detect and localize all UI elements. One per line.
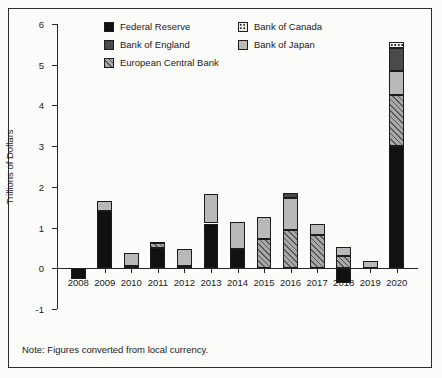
bar-segment-boj (97, 201, 112, 211)
stacked-bar[interactable] (71, 24, 86, 309)
bar-segment-ecb (310, 235, 325, 268)
stacked-bar[interactable] (124, 24, 139, 309)
bar-segment-fed (336, 268, 351, 283)
y-tick-label: 2 (22, 181, 44, 192)
bar-segment-fed (71, 268, 86, 279)
bar-segment-boj (204, 194, 219, 223)
bar-segment-boe (389, 48, 404, 70)
stacked-bar[interactable] (283, 24, 298, 309)
stacked-bar[interactable] (230, 24, 245, 309)
y-tick (52, 146, 57, 147)
y-tick-label: 3 (22, 141, 44, 152)
y-tick-label: 5 (22, 59, 44, 70)
bar-segment-ecb (389, 95, 404, 146)
bar-segment-fed (230, 249, 245, 269)
stacked-bar[interactable] (150, 24, 165, 309)
bar-segment-fed (389, 146, 404, 268)
bar-segment-boe (283, 193, 298, 198)
bar-segment-boj (310, 224, 325, 235)
chart-note: Note: Figures converted from local curre… (22, 344, 208, 355)
stacked-bar[interactable] (389, 24, 404, 309)
y-tick (52, 24, 57, 25)
bar-segment-boj (336, 247, 351, 256)
y-tick-label: 0 (22, 263, 44, 274)
y-tick (52, 228, 57, 229)
bar-segment-boj (150, 242, 165, 244)
bar-segment-boj (283, 198, 298, 230)
bar-segment-fed (177, 266, 192, 268)
bar-segment-boc (389, 42, 404, 48)
y-tick (52, 268, 57, 269)
stacked-bar[interactable] (177, 24, 192, 309)
bar-segment-boj (389, 71, 404, 95)
y-tick (52, 187, 57, 188)
y-tick-label: -1 (22, 304, 44, 315)
plot-area: Trillions of Dollars -10123456 200820092… (57, 24, 418, 309)
stacked-bar[interactable] (336, 24, 351, 309)
bar-segment-ecb (283, 230, 298, 268)
bar-segment-fed (204, 224, 219, 269)
bar-segment-ecb (257, 239, 272, 268)
y-tick (52, 309, 57, 310)
y-tick-label: 6 (22, 19, 44, 30)
stacked-bar[interactable] (204, 24, 219, 309)
stacked-bar[interactable] (310, 24, 325, 309)
y-tick-label: 4 (22, 100, 44, 111)
bar-segment-fed (150, 248, 165, 268)
y-axis-title: Trillions of Dollars (4, 129, 15, 204)
y-axis-line (57, 24, 58, 309)
bar-segment-boj (124, 253, 139, 266)
bar-segment-ecb (336, 256, 351, 268)
bar-segment-boj (177, 249, 192, 267)
chart-figure: Federal Reserve Bank of England European… (0, 0, 442, 378)
stacked-bar[interactable] (257, 24, 272, 309)
y-tick (52, 105, 57, 106)
bar-segment-boj (257, 217, 272, 239)
bar-segment-fed (124, 266, 139, 268)
y-tick (52, 65, 57, 66)
bar-segment-fed (97, 211, 112, 268)
stacked-bar[interactable] (363, 24, 378, 309)
bar-segment-boj (363, 261, 378, 268)
bar-segment-boj (230, 222, 245, 248)
stacked-bar[interactable] (97, 24, 112, 309)
y-tick-label: 1 (22, 222, 44, 233)
